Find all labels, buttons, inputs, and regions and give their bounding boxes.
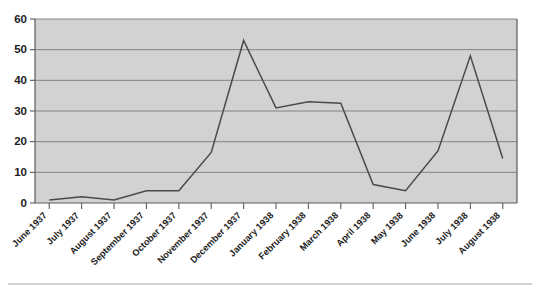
y-axis-tick-label: 20 (14, 135, 27, 147)
chart-canvas: 0102030405060 June 1937July 1937August 1… (0, 0, 540, 293)
y-axis-tick-label: 40 (14, 74, 27, 86)
y-axis-tick-label: 50 (14, 43, 27, 55)
line-chart-figure: 0102030405060 June 1937July 1937August 1… (0, 0, 540, 293)
y-axis-tick-label: 30 (14, 105, 27, 117)
y-axis-tick-label: 0 (21, 197, 27, 209)
y-axis-tick-label: 60 (14, 13, 27, 25)
y-axis-tick-label: 10 (14, 166, 27, 178)
